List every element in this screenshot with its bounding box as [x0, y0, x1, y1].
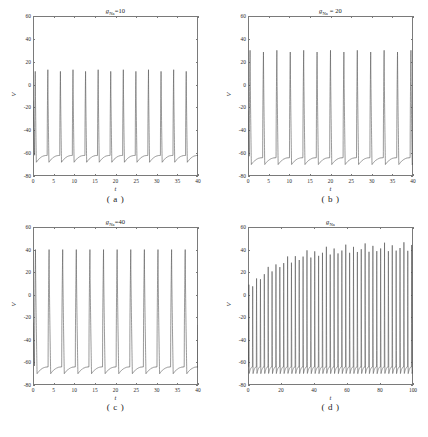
xtick-mark-b-1 — [269, 174, 270, 176]
series-a-0 — [33, 70, 198, 163]
ytick-mark-right-b-4 — [411, 85, 413, 86]
curve-a — [33, 16, 198, 176]
ytick-label-d-6: 40 — [241, 247, 246, 253]
xtick-mark-a-5 — [136, 174, 137, 176]
ytick-label-b-7: 60 — [241, 13, 246, 19]
xtick-label-a-7: 35 — [175, 178, 180, 184]
ytick-label-d-0: -80 — [239, 382, 246, 388]
xtick-mark-a-2 — [74, 174, 75, 176]
axes-frame-d — [248, 227, 413, 385]
xtick-mark-top-a-0 — [33, 16, 34, 18]
ytick-mark-a-4 — [33, 85, 35, 86]
ytick-mark-right-d-1 — [411, 362, 413, 363]
ytick-mark-b-1 — [248, 153, 250, 154]
xtick-label-c-7: 35 — [175, 387, 180, 393]
xtick-mark-top-c-0 — [33, 227, 34, 229]
axes-c: -80-60-40-2002040600510152025303540 — [33, 227, 198, 385]
curve-d — [248, 227, 413, 385]
ytick-label-c-5: 20 — [26, 269, 31, 275]
ytick-mark-a-3 — [33, 107, 35, 108]
axes-d: -80-60-40-200204060020406080100 — [248, 227, 413, 385]
xtick-mark-top-a-6 — [157, 16, 158, 18]
axes-b: -80-60-40-2002040600510152025303540 — [248, 16, 413, 176]
xtick-mark-top-a-5 — [136, 16, 137, 18]
xtick-label-d-0: 0 — [247, 387, 250, 393]
xtick-mark-b-7 — [392, 174, 393, 176]
yaxis-label-b: V — [225, 88, 232, 102]
xaxis-label-b: t — [330, 185, 332, 192]
ytick-label-a-5: 20 — [26, 59, 31, 65]
panel-c: gNa=40-80-60-40-200204060051015202530354… — [0, 0, 428, 437]
series-b-0 — [248, 50, 413, 164]
ytick-mark-d-7 — [248, 227, 250, 228]
xtick-label-b-7: 35 — [390, 178, 395, 184]
xtick-mark-c-6 — [157, 383, 158, 385]
xtick-label-b-0: 0 — [247, 178, 250, 184]
xtick-mark-top-a-1 — [54, 16, 55, 18]
plot-title-d: gNa — [248, 218, 413, 227]
ytick-label-b-1: -60 — [239, 150, 246, 156]
xtick-label-c-4: 20 — [113, 387, 118, 393]
ytick-label-c-2: -40 — [24, 337, 31, 343]
xtick-mark-top-d-5 — [413, 227, 414, 229]
xtick-label-a-4: 20 — [113, 178, 118, 184]
xtick-mark-b-8 — [413, 174, 414, 176]
ytick-label-a-4: 0 — [28, 82, 31, 88]
xtick-mark-a-4 — [116, 174, 117, 176]
xaxis-label-d: t — [330, 394, 332, 401]
ytick-mark-a-0 — [33, 176, 35, 177]
ytick-label-d-3: -20 — [239, 314, 246, 320]
ytick-label-d-7: 60 — [241, 224, 246, 230]
yaxis-label-d: V — [225, 298, 232, 312]
curve-c — [33, 227, 198, 385]
ytick-mark-b-2 — [248, 130, 250, 131]
xtick-mark-top-a-8 — [198, 16, 199, 18]
xtick-mark-top-c-3 — [95, 227, 96, 229]
xtick-mark-d-2 — [314, 383, 315, 385]
ytick-mark-right-a-1 — [196, 153, 198, 154]
xtick-mark-top-b-8 — [413, 16, 414, 18]
ytick-label-d-5: 20 — [241, 269, 246, 275]
ytick-mark-d-2 — [248, 340, 250, 341]
ytick-mark-b-7 — [248, 16, 250, 17]
ytick-mark-right-d-3 — [411, 317, 413, 318]
ytick-mark-right-a-0 — [196, 176, 198, 177]
xtick-label-b-5: 25 — [348, 178, 353, 184]
xtick-label-d-5: 100 — [409, 387, 417, 393]
xtick-mark-c-7 — [177, 383, 178, 385]
ytick-label-a-0: -80 — [24, 173, 31, 179]
ytick-label-c-3: -20 — [24, 314, 31, 320]
series-d-0 — [248, 242, 413, 373]
ytick-label-b-6: 40 — [241, 36, 246, 42]
ytick-mark-d-5 — [248, 272, 250, 273]
xtick-label-b-1: 5 — [267, 178, 270, 184]
xtick-mark-d-3 — [347, 383, 348, 385]
ytick-mark-right-a-7 — [196, 16, 198, 17]
ytick-mark-c-6 — [33, 250, 35, 251]
xtick-label-c-0: 0 — [32, 387, 35, 393]
ytick-mark-right-a-6 — [196, 39, 198, 40]
xtick-mark-c-5 — [136, 383, 137, 385]
ytick-label-b-2: -40 — [239, 127, 246, 133]
ytick-label-c-4: 0 — [28, 292, 31, 298]
xtick-label-d-2: 40 — [311, 387, 316, 393]
ytick-mark-d-4 — [248, 295, 250, 296]
xtick-mark-a-0 — [33, 174, 34, 176]
xtick-mark-a-6 — [157, 174, 158, 176]
ytick-mark-c-3 — [33, 317, 35, 318]
xtick-mark-top-d-4 — [380, 227, 381, 229]
ytick-mark-a-7 — [33, 16, 35, 17]
xtick-mark-d-1 — [281, 383, 282, 385]
ytick-label-a-3: -20 — [24, 104, 31, 110]
ytick-mark-right-b-5 — [411, 62, 413, 63]
ytick-label-a-6: 40 — [26, 36, 31, 42]
xtick-mark-a-1 — [54, 174, 55, 176]
xtick-label-b-3: 15 — [307, 178, 312, 184]
panel-a: gNa=10-80-60-40-200204060051015202530354… — [0, 0, 428, 437]
panel-b: gNa = 20-80-60-40-2002040600510152025303… — [0, 0, 428, 437]
ytick-mark-a-6 — [33, 39, 35, 40]
ytick-mark-c-4 — [33, 295, 35, 296]
ytick-mark-right-d-7 — [411, 227, 413, 228]
ytick-mark-right-c-4 — [196, 295, 198, 296]
xtick-mark-top-c-7 — [177, 227, 178, 229]
